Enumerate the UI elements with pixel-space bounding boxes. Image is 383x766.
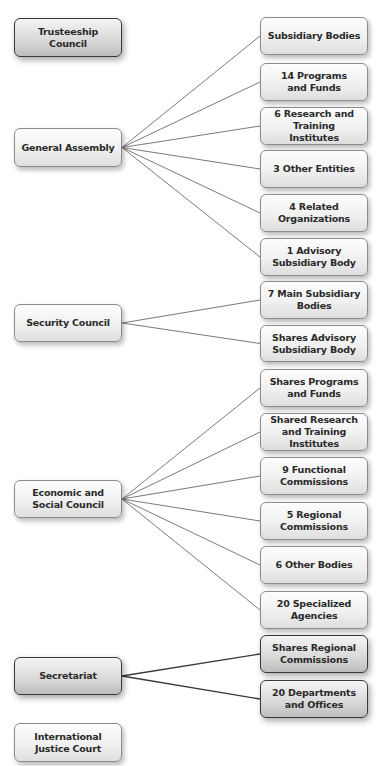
body-related-organizations[interactable]: 4 Related Organizations (260, 194, 368, 232)
connector-line (122, 499, 260, 610)
body-specialized-agencies[interactable]: 20 Specialized Agencies (260, 591, 368, 629)
connector-line (122, 654, 260, 676)
body-label: 9 Functional Commissions (280, 464, 348, 488)
connector-line (122, 499, 260, 521)
body-functional-commissions[interactable]: 9 Functional Commissions (260, 457, 368, 495)
organ-label: Economic and Social Council (32, 487, 104, 511)
body-shares-advisory[interactable]: Shares Advisory Subsidiary Body (260, 325, 368, 362)
body-label: 14 Programs and Funds (281, 70, 347, 94)
body-label: 1 Advisory Subsidiary Body (272, 245, 356, 269)
body-label: 20 Specialized Agencies (277, 598, 351, 622)
organ-economic-social-council[interactable]: Economic and Social Council (14, 480, 122, 518)
body-departments-offices[interactable]: 20 Departments and Offices (260, 680, 368, 718)
organ-general-assembly[interactable]: General Assembly (14, 128, 122, 167)
organ-international-justice-court[interactable]: International Justice Court (14, 723, 122, 762)
connector-line (122, 432, 260, 499)
body-label: Shares Programs and Funds (270, 376, 359, 400)
body-label: 5 Regional Commissions (280, 509, 348, 533)
body-shared-research[interactable]: Shared Research and Training Institutes (260, 413, 368, 451)
connector-line (122, 476, 260, 499)
org-chart: Trusteeship Council General Assembly Sec… (0, 0, 383, 766)
organ-security-council[interactable]: Security Council (14, 304, 122, 342)
connector-line (122, 323, 260, 344)
connector-line (122, 148, 260, 258)
organ-label: Security Council (26, 317, 110, 329)
body-subsidiary-bodies[interactable]: Subsidiary Bodies (260, 17, 368, 55)
connector-line (122, 676, 260, 699)
connector-line (122, 300, 260, 323)
body-label: 6 Research and Training Institutes (267, 108, 361, 144)
body-regional-commissions[interactable]: 5 Regional Commissions (260, 502, 368, 540)
body-label: 4 Related Organizations (278, 201, 350, 225)
body-advisory-subsidiary-body[interactable]: 1 Advisory Subsidiary Body (260, 238, 368, 276)
organ-label: International Justice Court (34, 731, 101, 755)
connector-line (122, 388, 260, 499)
organ-trusteeship-council[interactable]: Trusteeship Council (14, 18, 122, 57)
body-shares-programs[interactable]: Shares Programs and Funds (260, 369, 368, 407)
organ-label: Secretariat (39, 670, 97, 682)
organ-secretariat[interactable]: Secretariat (14, 657, 122, 695)
body-research-institutes[interactable]: 6 Research and Training Institutes (260, 107, 368, 145)
body-label: Shares Regional Commissions (272, 642, 356, 666)
body-label: Shared Research and Training Institutes (270, 414, 358, 450)
body-label: 7 Main Subsidiary Bodies (268, 288, 360, 312)
connector-line (122, 148, 260, 170)
body-label: 20 Departments and Offices (272, 687, 356, 711)
body-label: 6 Other Bodies (276, 559, 353, 571)
organ-label: General Assembly (21, 142, 114, 154)
body-label: Shares Advisory Subsidiary Body (272, 332, 356, 356)
organ-label: Trusteeship Council (21, 26, 115, 50)
connector-line (122, 148, 260, 214)
body-other-bodies[interactable]: 6 Other Bodies (260, 546, 368, 584)
body-other-entities[interactable]: 3 Other Entities (260, 150, 368, 188)
body-programs-and-funds[interactable]: 14 Programs and Funds (260, 63, 368, 101)
body-label: Subsidiary Bodies (268, 30, 361, 42)
body-label: 3 Other Entities (273, 163, 354, 175)
body-shares-regional[interactable]: Shares Regional Commissions (260, 635, 368, 673)
connector-line (122, 126, 260, 148)
body-main-subsidiary-bodies[interactable]: 7 Main Subsidiary Bodies (260, 281, 368, 319)
